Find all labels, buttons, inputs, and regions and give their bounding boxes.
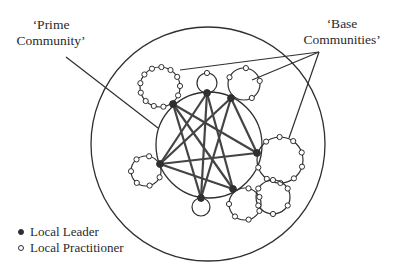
legend: Local Leader Local Practitioner [14, 224, 124, 256]
local-practitioner-node [285, 203, 290, 208]
local-practitioner-node [159, 65, 164, 70]
local-practitioner-node [143, 98, 148, 103]
prime-label-line1: ‘Prime [14, 17, 88, 33]
local-practitioner-node [256, 165, 261, 170]
local-practitioner-node [249, 95, 254, 100]
local-practitioner-node [142, 72, 147, 77]
local-leader-node [228, 95, 235, 102]
local-leader-node [230, 186, 237, 193]
legend-item-local-practitioner: Local Practitioner [14, 240, 124, 256]
local-practitioner-node [246, 186, 251, 191]
base-community-left [128, 154, 162, 189]
legend-item-local-leader: Local Leader [14, 224, 124, 240]
local-practitioner-node [147, 183, 152, 188]
local-leader-node [254, 150, 261, 157]
prime-label-line2: Community’ [14, 33, 88, 49]
local-practitioner-node [168, 67, 173, 72]
local-practitioner-node [149, 66, 154, 71]
local-practitioner-node [257, 194, 262, 199]
outer-boundary-circle [91, 27, 325, 261]
local-practitioner-node [227, 75, 232, 80]
base-community-right [256, 134, 305, 185]
local-practitioner-node [246, 217, 251, 222]
local-practitioner-node [161, 104, 166, 109]
local-practitioner-node [177, 83, 182, 88]
local-practitioner-node [147, 154, 152, 159]
open-circle-icon [18, 245, 24, 251]
local-practitioner-node [151, 103, 156, 108]
local-leader-node [198, 195, 205, 202]
base-community-ring [257, 137, 303, 183]
filled-circle-icon [18, 229, 24, 235]
leader-network-edges [160, 93, 257, 198]
local-practitioner-node [138, 81, 143, 86]
local-practitioner-node [256, 203, 261, 208]
local-practitioner-node [291, 139, 296, 144]
local-practitioner-node [128, 169, 133, 174]
base-label-line2: Communities’ [302, 32, 382, 48]
base-communities-label: ‘Base Communities’ [302, 16, 382, 48]
local-practitioner-node [291, 176, 296, 181]
local-leader-node [204, 90, 211, 97]
prime-pointer-line [66, 57, 158, 128]
local-practitioner-node [264, 139, 269, 144]
local-practitioner-node [277, 134, 282, 139]
local-practitioner-node [134, 157, 139, 162]
local-practitioner-node [232, 214, 237, 219]
prime-community-label: ‘Prime Community’ [14, 17, 88, 49]
local-practitioner-node [134, 180, 139, 185]
legend-label-leader: Local Leader [30, 224, 99, 240]
local-leader-node [157, 161, 164, 168]
local-leader-node [170, 101, 177, 108]
local-practitioner-node [299, 150, 304, 155]
local-practitioner-node [204, 70, 209, 75]
local-practitioner-node [256, 186, 261, 191]
base-label-line1: ‘Base [302, 16, 382, 32]
local-practitioner-node [226, 201, 231, 206]
local-practitioner-node [270, 211, 275, 216]
local-practitioner-node [243, 66, 248, 71]
local-practitioner-node [176, 93, 181, 98]
outer-circle [91, 27, 325, 261]
local-practitioner-node [257, 78, 262, 83]
local-practitioner-node [157, 175, 162, 180]
local-practitioner-node [285, 186, 290, 191]
local-practitioner-node [175, 74, 180, 79]
local-practitioner-node [299, 164, 304, 169]
leader-connection-edge [160, 93, 207, 164]
local-practitioner-node [138, 90, 143, 95]
local-practitioner-node [270, 177, 275, 182]
legend-label-practitioner: Local Practitioner [30, 240, 124, 256]
